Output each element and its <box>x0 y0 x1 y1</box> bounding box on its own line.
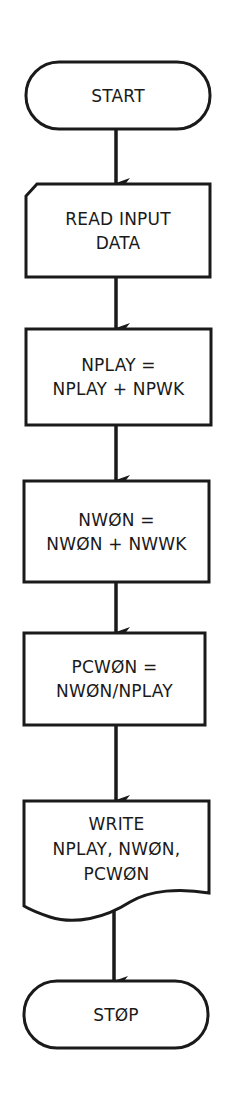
read-input-label-line-2: DATA <box>96 231 141 255</box>
write-label-line-2: NPLAY, NWØN, <box>53 837 181 862</box>
pcwon-label: PCWØN = NWØN/NPLAY <box>24 635 205 723</box>
write-label: WRITE NPLAY, NWØN, PCWØN <box>24 808 209 890</box>
stop-label-line-1: STØP <box>93 1003 139 1027</box>
read-input-label-line-1: READ INPUT <box>65 207 171 231</box>
nplay-label-line-2: NPLAY + NPWK <box>53 377 185 401</box>
write-label-line-1: WRITE <box>89 812 145 837</box>
write-label-line-3: PCWØN <box>83 862 149 887</box>
read-input-label: READ INPUT DATA <box>26 186 210 276</box>
nplay-label: NPLAY = NPLAY + NPWK <box>26 331 211 423</box>
start-label-line-1: START <box>91 84 144 108</box>
pcwon-label-line-2: NWØN/NPLAY <box>56 679 173 703</box>
pcwon-label-line-1: PCWØN = <box>71 655 157 679</box>
nwon-label-line-2: NWØN + NWWK <box>46 532 186 556</box>
nwon-label: NWØN = NWØN + NWWK <box>24 483 209 580</box>
nplay-label-line-1: NPLAY = <box>81 353 156 377</box>
stop-label: STØP <box>24 981 208 1048</box>
start-label: START <box>26 62 210 129</box>
nwon-label-line-1: NWØN = <box>78 508 154 532</box>
